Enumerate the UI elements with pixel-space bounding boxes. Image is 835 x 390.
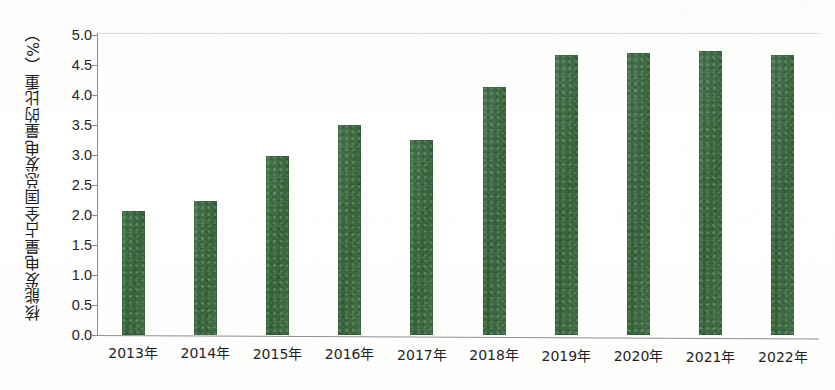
bar bbox=[771, 55, 794, 335]
x-axis-tick-label: 2022年 bbox=[747, 346, 819, 366]
y-axis-tick-label: 3.0 bbox=[52, 147, 92, 163]
y-axis-title: 核能发电量占全国总发电量的比重（%） bbox=[14, 0, 54, 345]
y-axis-tick-mark bbox=[92, 65, 97, 66]
bar bbox=[338, 125, 361, 335]
x-axis-tick-label: 2018年 bbox=[458, 344, 530, 364]
x-axis-tick-label: 2019年 bbox=[530, 345, 602, 365]
bar bbox=[555, 55, 578, 335]
bar bbox=[627, 53, 650, 335]
y-axis-tick-mark bbox=[92, 35, 97, 36]
y-axis-tick-mark bbox=[92, 275, 97, 276]
bar bbox=[699, 51, 722, 335]
bar bbox=[483, 87, 506, 335]
x-axis-tick-label: 2015年 bbox=[242, 343, 314, 363]
y-axis-tick-mark bbox=[92, 335, 97, 336]
y-axis-tick-mark bbox=[92, 185, 97, 186]
plot-top-border bbox=[97, 33, 819, 34]
x-axis-tick-label-group: 2013年2014年2015年2016年2017年2018年2019年2020年… bbox=[97, 342, 819, 372]
y-axis-tick-label: 0.0 bbox=[52, 327, 92, 343]
y-axis-tick-label: 2.0 bbox=[52, 207, 92, 223]
y-axis-tick-mark bbox=[92, 125, 97, 126]
bar-series-layer bbox=[97, 35, 819, 335]
bar bbox=[410, 140, 433, 335]
x-axis-tick-label: 2014年 bbox=[169, 342, 241, 362]
x-axis-spine bbox=[91, 335, 819, 340]
x-axis-tick-label: 2021年 bbox=[675, 346, 747, 366]
bar bbox=[266, 156, 289, 335]
bar bbox=[122, 211, 145, 335]
y-axis-tick-label: 2.5 bbox=[52, 177, 92, 193]
bar bbox=[194, 201, 217, 335]
y-axis-tick-mark bbox=[92, 215, 97, 216]
y-axis-tick-label: 0.5 bbox=[52, 297, 92, 313]
bar-chart-figure: 核能发电量占全国总发电量的比重（%） 0.00.51.01.52.02.53.0… bbox=[0, 0, 835, 390]
y-axis-tick-label: 4.0 bbox=[52, 87, 92, 103]
plot-area bbox=[97, 35, 819, 335]
y-axis-tick-mark bbox=[92, 245, 97, 246]
y-axis-tick-mark bbox=[92, 155, 97, 156]
y-axis-tick-label: 5.0 bbox=[52, 27, 92, 43]
y-axis-tick-label: 1.0 bbox=[52, 267, 92, 283]
y-axis-tick-mark bbox=[92, 305, 97, 306]
y-axis-tick-label: 1.5 bbox=[52, 237, 92, 253]
y-axis-tick-mark bbox=[92, 95, 97, 96]
x-axis-tick-label: 2017年 bbox=[386, 344, 458, 364]
x-axis-tick-label: 2016年 bbox=[314, 343, 386, 363]
y-axis-title-text: 核能发电量占全国总发电量的比重（%） bbox=[23, 25, 45, 321]
y-axis-tick-label-group: 0.00.51.01.52.02.53.03.54.04.55.0 bbox=[52, 0, 92, 390]
y-axis-tick-label: 3.5 bbox=[52, 117, 92, 133]
x-axis-tick-label: 2020年 bbox=[603, 345, 675, 365]
x-axis-tick-label: 2013年 bbox=[97, 342, 169, 362]
y-axis-tick-label: 4.5 bbox=[52, 57, 92, 73]
